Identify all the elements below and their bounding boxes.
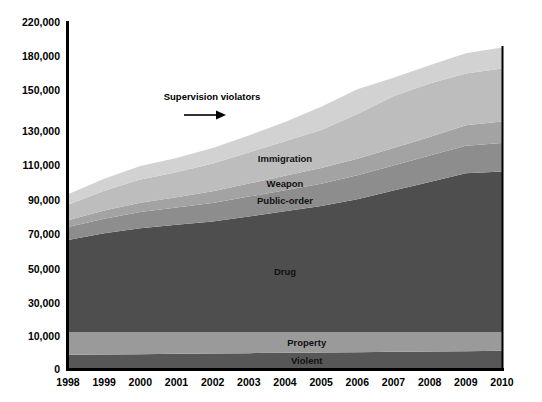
y-tick-label: 90,000 bbox=[28, 194, 60, 206]
x-tick-label: 2007 bbox=[382, 376, 406, 388]
chart-figure: 010,00030,00050,00070,00090,000110,00013… bbox=[0, 0, 542, 402]
x-tick-label: 2005 bbox=[310, 376, 334, 388]
x-tick-label: 2008 bbox=[418, 376, 442, 388]
annotation-label: Supervision violators bbox=[164, 91, 261, 102]
y-tick-label: 50,000 bbox=[28, 263, 60, 275]
series-label-immigration: Immigration bbox=[258, 153, 313, 164]
x-tick-label: 1999 bbox=[93, 376, 117, 388]
stacked-area-chart: 010,00030,00050,00070,00090,000110,00013… bbox=[0, 0, 542, 402]
x-tick-label: 1998 bbox=[56, 376, 80, 388]
series-label-violent: Violent bbox=[291, 355, 323, 366]
y-tick-label: 0 bbox=[54, 363, 60, 375]
y-tick-label: 180,000 bbox=[22, 50, 60, 62]
x-tick-label: 2010 bbox=[490, 376, 514, 388]
y-tick-label: 30,000 bbox=[28, 297, 60, 309]
x-tick-label: 2003 bbox=[237, 376, 261, 388]
series-label-weapon: Weapon bbox=[267, 178, 304, 189]
series-label-property: Property bbox=[287, 337, 327, 348]
y-tick-label: 220,000 bbox=[22, 16, 60, 28]
y-tick-label: 130,000 bbox=[22, 125, 60, 137]
y-tick-label: 70,000 bbox=[28, 228, 60, 240]
series-label-drug: Drug bbox=[274, 266, 296, 277]
y-tick-label: 10,000 bbox=[28, 330, 60, 342]
x-tick-label: 2004 bbox=[273, 376, 297, 388]
y-tick-label: 150,000 bbox=[22, 84, 60, 96]
area-band-property bbox=[68, 332, 502, 355]
x-tick-label: 2001 bbox=[165, 376, 189, 388]
y-tick-label: 110,000 bbox=[23, 159, 61, 171]
x-tick-label: 2000 bbox=[129, 376, 153, 388]
x-tick-label: 2002 bbox=[201, 376, 225, 388]
series-label-public-order: Public-order bbox=[257, 195, 313, 206]
x-tick-label: 2009 bbox=[454, 376, 478, 388]
x-tick-label: 2006 bbox=[346, 376, 370, 388]
